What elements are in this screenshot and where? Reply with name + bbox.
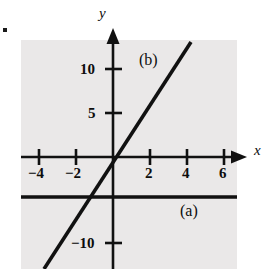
- y-tick-label-5: 5: [88, 106, 96, 121]
- x-axis-arrowhead: [231, 151, 247, 164]
- x-tick-label--2: −2: [65, 166, 81, 181]
- annotation-label-a: (a): [180, 203, 198, 219]
- bullet-marker: [3, 28, 7, 32]
- graph-svg: [0, 0, 269, 269]
- y-axis-arrowhead: [107, 28, 120, 44]
- annotation-label-b: (b): [139, 52, 158, 68]
- x-tick-label-6: 6: [219, 166, 227, 181]
- panel-texture: [21, 40, 237, 269]
- x-axis-label: x: [254, 143, 261, 158]
- y-tick-label-10: 10: [80, 62, 95, 77]
- x-tick-label-4: 4: [182, 166, 190, 181]
- x-tick-label-2: 2: [145, 166, 153, 181]
- figure-canvas: y x −4 −2 2 4 6 10 5 −10 (b) (a): [0, 0, 269, 269]
- y-tick-label--10: −10: [71, 236, 95, 251]
- y-axis-label: y: [99, 6, 106, 21]
- x-tick-label--4: −4: [28, 166, 44, 181]
